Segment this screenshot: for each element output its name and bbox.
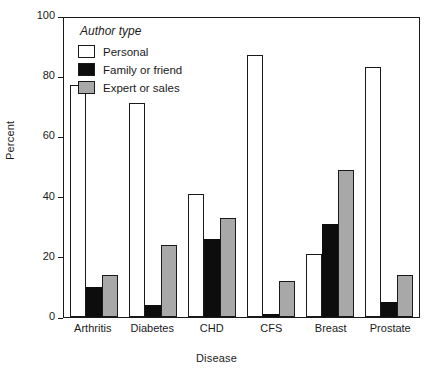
x-axis-title: Disease [0, 352, 433, 364]
y-tick-label: 100 [15, 9, 55, 21]
y-tick-label: 60 [15, 129, 55, 141]
legend-swatch [78, 45, 95, 58]
legend-item-label: Family or friend [103, 64, 182, 76]
y-axis-ticks: 020406080100 [0, 0, 63, 379]
x-axis-labels: ArthritisDiabetesCHDCFSBreastProstate [63, 322, 420, 334]
bar [381, 302, 397, 317]
y-tick-label: 80 [15, 69, 55, 81]
bar [161, 245, 177, 317]
bar [102, 275, 118, 317]
bar [86, 287, 102, 317]
bar-group [247, 18, 295, 317]
x-tick-label: CHD [182, 322, 242, 334]
bar [365, 67, 381, 317]
bar [397, 275, 413, 317]
bar [322, 224, 338, 317]
x-tick-label: Arthritis [63, 322, 123, 334]
bar [306, 254, 322, 317]
bar [338, 170, 354, 317]
legend-item-label: Personal [103, 46, 148, 58]
legend-item: Personal [78, 45, 248, 58]
legend: Author type PersonalFamily or friendExpe… [78, 24, 248, 99]
x-tick-label: CFS [242, 322, 302, 334]
bar [263, 314, 279, 317]
bar [247, 55, 263, 317]
legend-swatch [78, 81, 95, 94]
y-tick-label: 40 [15, 190, 55, 202]
bar [70, 85, 86, 317]
x-tick-label: Diabetes [123, 322, 183, 334]
legend-swatch [78, 63, 95, 76]
legend-items: PersonalFamily or friendExpert or sales [78, 45, 248, 94]
legend-item: Expert or sales [78, 81, 248, 94]
bar [220, 218, 236, 317]
bar [204, 239, 220, 317]
x-tick-label: Prostate [361, 322, 421, 334]
legend-title: Author type [80, 24, 248, 38]
bar-group [306, 18, 354, 317]
bar-group [365, 18, 413, 317]
bar [129, 103, 145, 317]
bar [279, 281, 295, 317]
legend-item-label: Expert or sales [103, 82, 180, 94]
bar [188, 194, 204, 317]
bar [145, 305, 161, 317]
bar-chart: Percent 020406080100 ArthritisDiabetesCH… [0, 0, 433, 379]
y-tick-label: 20 [15, 250, 55, 262]
y-tick-label: 0 [15, 310, 55, 322]
x-tick-label: Breast [301, 322, 361, 334]
legend-item: Family or friend [78, 63, 248, 76]
